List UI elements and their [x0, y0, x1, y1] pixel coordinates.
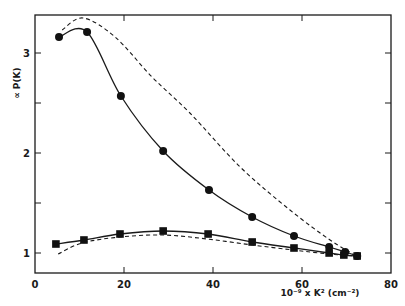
data-point-square	[340, 251, 348, 259]
y-tick-label: 2	[23, 148, 30, 159]
y-tick-label: 3	[23, 48, 30, 59]
data-point-square	[204, 230, 212, 238]
x-axis-label: 10⁻⁹ x K² (cm⁻²)	[281, 288, 360, 298]
data-point-circle	[83, 28, 91, 36]
data-point-circle	[159, 147, 167, 155]
data-point-circle	[290, 232, 298, 240]
y-tick-label: 1	[23, 248, 30, 259]
x-tick-label: 80	[384, 279, 398, 290]
data-point-square	[52, 240, 60, 248]
data-point-square	[353, 252, 361, 260]
y-axis-label: ∝ P(K)	[12, 67, 22, 98]
data-point-square	[80, 236, 88, 244]
data-point-square	[159, 227, 167, 235]
data-point-circle	[205, 186, 213, 194]
data-point-square	[116, 230, 124, 238]
x-tick-label: 40	[206, 279, 220, 290]
data-point-circle	[55, 33, 63, 41]
x-tick-label: 0	[32, 279, 39, 290]
chart: 020406080123 10⁻⁹ x K² (cm⁻²) ∝ P(K)	[0, 0, 405, 306]
series-line-circle-0	[59, 29, 357, 256]
x-tick-label: 20	[117, 279, 131, 290]
series-line-none-3	[58, 235, 355, 256]
data-point-circle	[117, 92, 125, 100]
data-point-circle	[248, 213, 256, 221]
data-point-square	[290, 244, 298, 252]
series-line-none-2	[62, 18, 353, 254]
data-point-square	[248, 238, 256, 246]
data-point-square	[325, 249, 333, 257]
